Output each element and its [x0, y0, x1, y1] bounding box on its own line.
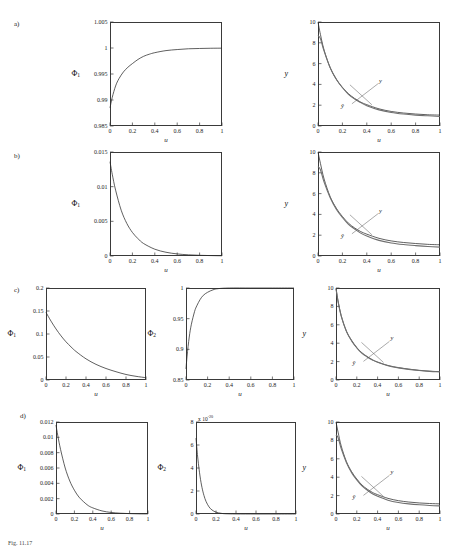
x-tick-label: 0.8: [415, 382, 423, 388]
y-tick-label: 8: [300, 437, 334, 443]
panel-a-phi1: 0.9850.990.99511.00500.20.40.60.81Φ1u: [110, 22, 222, 126]
y-tick-label: 1: [150, 285, 184, 291]
axis-exponent-d-phi2: x 10-20: [198, 414, 213, 422]
x-axis-label-c-phi1: u: [46, 390, 146, 398]
x-tick-label: 0.2: [204, 382, 212, 388]
x-tick-label: 1: [439, 258, 442, 264]
x-tick-label: 0.8: [196, 258, 204, 264]
x-tick-label: 1: [439, 382, 442, 388]
figure-caption: Fig. 11.17: [8, 540, 32, 546]
x-tick-label: 0.2: [339, 128, 347, 134]
panel-d-y: yŷ024681000.20.40.60.81yu: [336, 422, 440, 514]
panel-c-phi1: 00.050.10.150.200.20.40.60.81Φ1u: [46, 288, 146, 380]
plot-canvas-c-y: yŷ: [336, 288, 440, 380]
y-tick-label: 0.008: [20, 450, 54, 456]
data-curve: [46, 312, 146, 377]
x-tick-label: 1: [145, 382, 148, 388]
x-tick-label: 0.4: [374, 516, 382, 522]
y-axis-label-d-y: y: [302, 463, 306, 472]
x-tick-label: 0: [109, 128, 112, 134]
x-axis-label-a-phi1: u: [110, 136, 222, 144]
curve-label-y: y: [378, 77, 382, 84]
x-axis-label-a-y: u: [318, 136, 440, 144]
panel-c-y: yŷ024681000.20.40.60.81yu: [336, 288, 440, 380]
y-tick-label: 6: [160, 442, 194, 448]
x-tick-label: 0.4: [89, 516, 97, 522]
curve-label-y: y: [389, 468, 393, 475]
x-tick-label: 0.4: [82, 382, 90, 388]
x-tick-label: 0.6: [395, 382, 403, 388]
y-tick-label: 10: [300, 285, 334, 291]
plot-canvas-a-phi1: [110, 22, 222, 126]
leader-line-y: [352, 214, 378, 234]
x-axis-label-d-y: u: [336, 524, 440, 532]
y-tick-label: 2: [282, 102, 316, 108]
leader-line-y: [363, 341, 389, 361]
x-tick-label: 0: [45, 382, 48, 388]
x-tick-label: 1: [221, 258, 224, 264]
y-tick-label: 0: [282, 253, 316, 259]
plot-canvas-c-phi1: [46, 288, 146, 380]
x-tick-label: 0: [185, 382, 188, 388]
y-axis-label-text: y: [284, 199, 288, 208]
x-tick-label: 0.4: [225, 382, 233, 388]
y-tick-label: 10: [300, 419, 334, 425]
x-tick-label: 0.2: [129, 128, 137, 134]
y-tick-label: 6: [282, 191, 316, 197]
y-axis-label-text: y: [302, 329, 306, 338]
y-tick-label: 0.015: [74, 149, 108, 155]
y-tick-label: 6: [300, 322, 334, 328]
y-tick-label: 8: [300, 303, 334, 309]
x-tick-label: 0: [195, 516, 198, 522]
x-tick-label: 1: [295, 516, 298, 522]
x-axis-label-d-phi1: u: [56, 524, 148, 532]
plot-canvas-b-phi1: [110, 152, 222, 256]
data-curve-y: [336, 422, 440, 504]
y-tick-label: 0: [300, 511, 334, 517]
x-tick-label: 0.6: [173, 128, 181, 134]
curve-label-yhat: ŷ: [340, 102, 344, 109]
y-tick-label: 0.9: [150, 346, 184, 352]
x-tick-label: 0: [335, 382, 338, 388]
y-tick-label: 0.985: [74, 123, 108, 129]
axis-exponent-prefix: x 10: [198, 416, 208, 422]
leader-line-y: [352, 84, 378, 104]
y-axis-label-b-phi1: Φ1: [71, 199, 80, 208]
y-axis-label-c-phi2: Φ2: [147, 329, 156, 338]
plot-canvas-d-phi1: [56, 422, 148, 514]
y-axis-label-c-phi1: Φ1: [7, 329, 16, 338]
panel-d-phi2: 0246800.20.40.60.81Φ2ux 10-20: [196, 422, 296, 514]
y-tick-label: 4: [282, 211, 316, 217]
x-tick-label: 0: [317, 258, 320, 264]
curve-label-yhat: ŷ: [351, 359, 355, 366]
data-curve: [56, 425, 148, 514]
y-axis-label-subscript: 2: [153, 332, 156, 338]
y-tick-label: 0: [282, 123, 316, 129]
y-tick-label: 2: [282, 232, 316, 238]
x-tick-label: 0: [55, 516, 58, 522]
plot-canvas-d-y: yŷ: [336, 422, 440, 514]
x-tick-label: 0.8: [272, 516, 280, 522]
y-tick-label: 0.002: [20, 496, 54, 502]
y-tick-label: 10: [282, 19, 316, 25]
curve-label-y: y: [378, 207, 382, 214]
y-tick-label: 6: [300, 456, 334, 462]
y-axis-label-d-phi1: Φ1: [17, 463, 26, 472]
data-curve: [196, 438, 296, 514]
y-tick-label: 0.15: [10, 308, 44, 314]
plot-canvas-d-phi2: [196, 422, 296, 514]
y-tick-label: 8: [282, 40, 316, 46]
x-tick-label: 0.4: [151, 128, 159, 134]
y-tick-label: 4: [300, 340, 334, 346]
figure-panel-grid: a)0.9850.990.99511.00500.20.40.60.81Φ1uy…: [0, 0, 463, 548]
leader-line-y: [363, 475, 389, 495]
curve-label-yhat: ŷ: [351, 493, 355, 500]
x-tick-label: 0.6: [252, 516, 260, 522]
x-tick-label: 0.2: [339, 258, 347, 264]
curve-label-yhat: ŷ: [340, 232, 344, 239]
data-curve: [110, 162, 222, 256]
x-tick-label: 0.8: [412, 128, 420, 134]
panel-b-y: yŷ024681000.20.40.60.81yu: [318, 152, 440, 256]
data-curve-y: [318, 152, 440, 245]
data-curve: [186, 288, 294, 369]
